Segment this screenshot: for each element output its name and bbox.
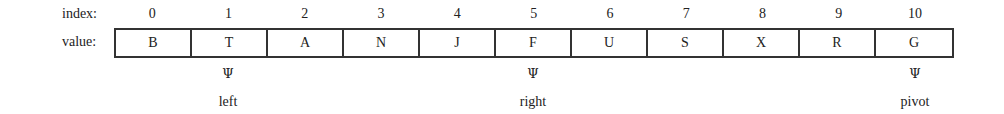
pointer-label: left: [190, 94, 266, 110]
index-4: 4: [419, 6, 495, 22]
pointer-arrow-icon: Ψ: [495, 66, 571, 81]
index-8: 8: [724, 6, 800, 22]
array-cell-6: U: [572, 30, 648, 56]
array-cell-1: T: [192, 30, 268, 56]
array-cell-4: J: [420, 30, 496, 56]
array-cell-5: F: [496, 30, 572, 56]
value-row-label: value:: [62, 34, 112, 50]
pointer-arrow-icon: Ψ: [877, 66, 953, 81]
index-5: 5: [495, 6, 571, 22]
index-10: 10: [877, 6, 953, 22]
array-cell-9: R: [800, 30, 876, 56]
array-cell-2: A: [268, 30, 344, 56]
index-0: 0: [114, 6, 190, 22]
array-cell-7: S: [648, 30, 724, 56]
index-row-label: index:: [62, 6, 112, 22]
index-row: 0 1 2 3 4 5 6 7 8 9 10: [114, 6, 953, 22]
index-2: 2: [267, 6, 343, 22]
index-9: 9: [801, 6, 877, 22]
index-7: 7: [648, 6, 724, 22]
array-cell-0: B: [116, 30, 192, 56]
pointer-label: pivot: [877, 94, 953, 110]
array-cell-10: G: [876, 30, 952, 56]
index-3: 3: [343, 6, 419, 22]
array-box: B T A N J F U S X R G: [114, 28, 954, 58]
pointer-label: right: [495, 94, 571, 110]
array-cell-8: X: [724, 30, 800, 56]
index-1: 1: [190, 6, 266, 22]
index-6: 6: [572, 6, 648, 22]
pointer-arrow-icon: Ψ: [190, 66, 266, 81]
array-cell-3: N: [344, 30, 420, 56]
